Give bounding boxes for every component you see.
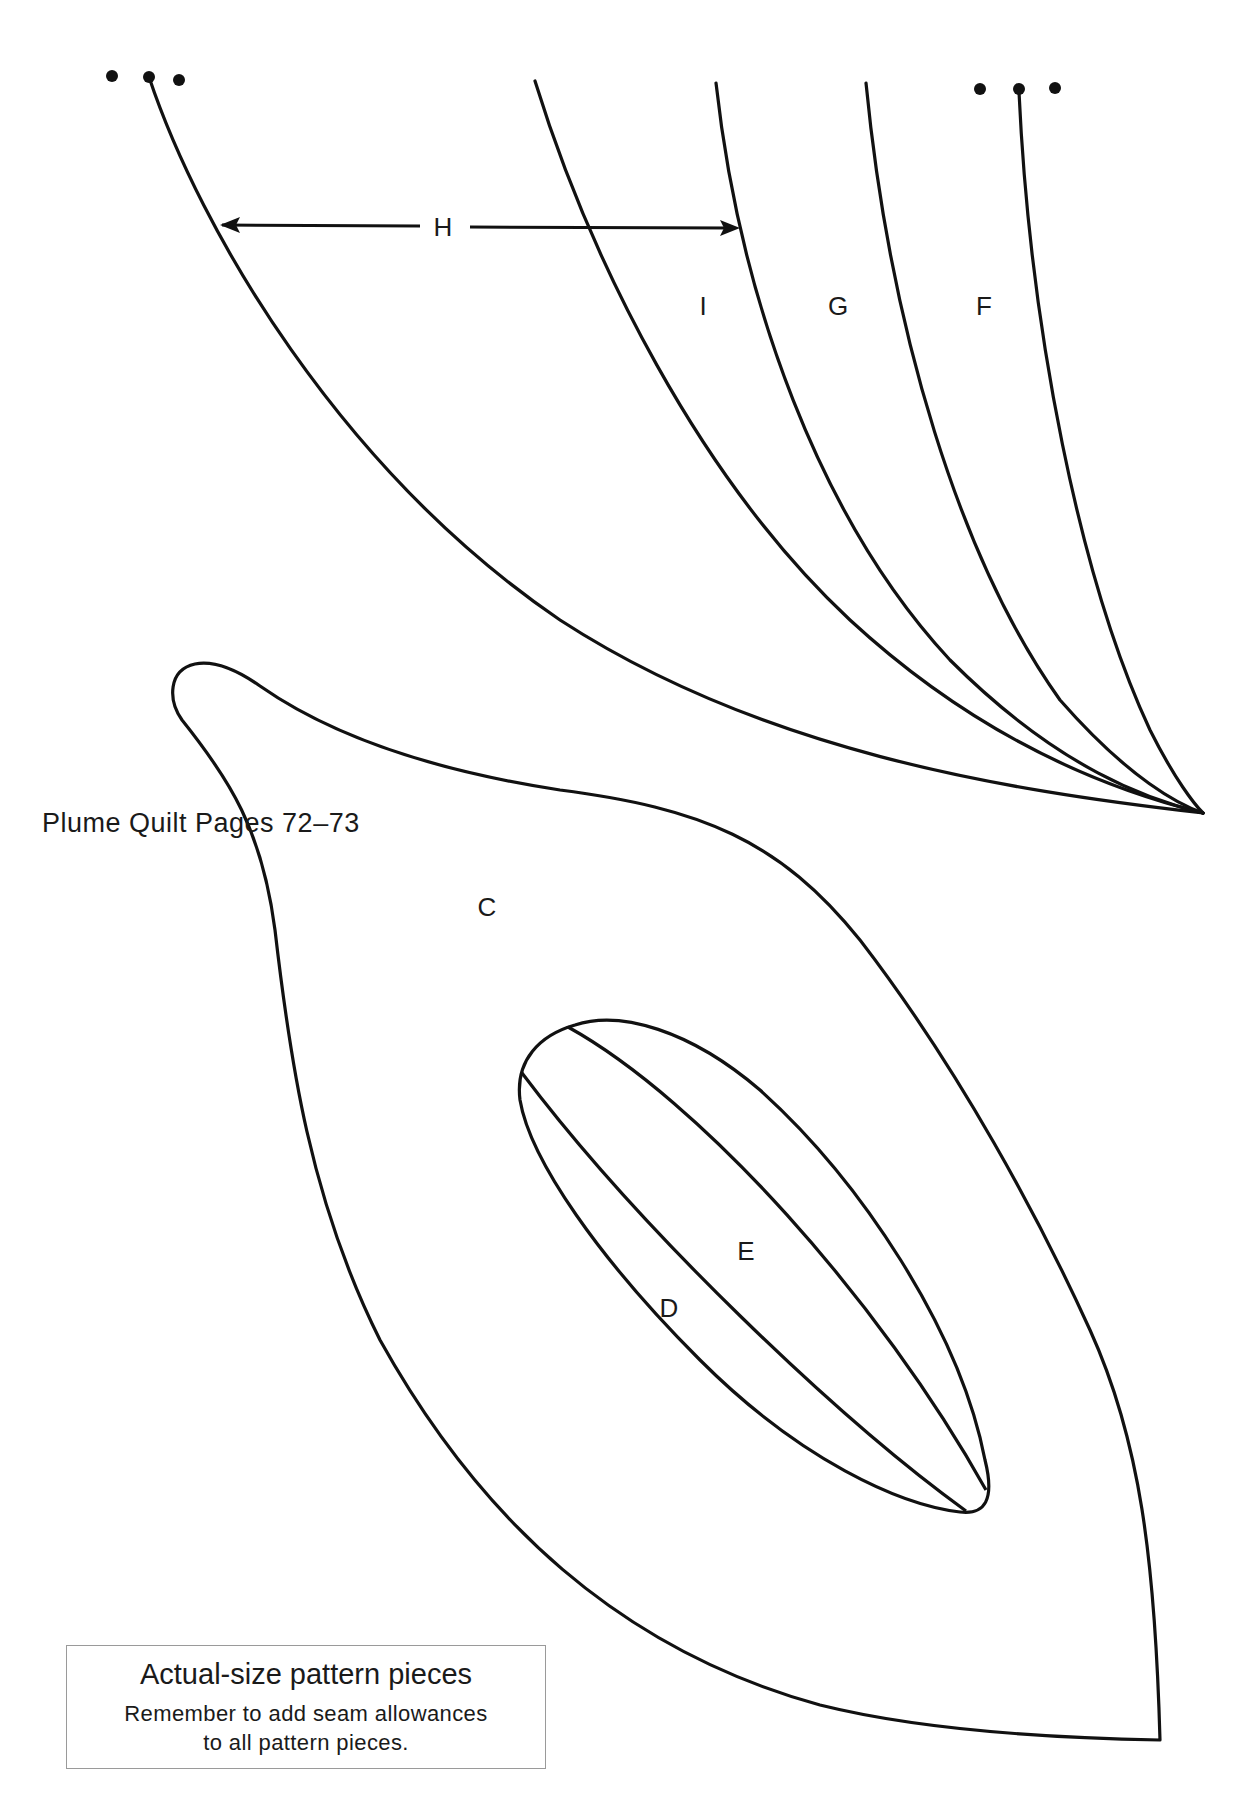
piece-label-c: C xyxy=(478,894,497,920)
dot xyxy=(143,71,155,83)
instruction-heading: Actual-size pattern pieces xyxy=(67,1658,545,1691)
piece-label-e: E xyxy=(737,1238,754,1264)
piece-label-g: G xyxy=(828,293,848,319)
h-dimension-arrow xyxy=(220,217,740,236)
piece-label-i: I xyxy=(699,293,706,319)
plume-outline-right xyxy=(1019,92,1203,813)
instruction-line-2: to all pattern pieces. xyxy=(67,1728,545,1757)
instruction-text: Remember to add seam allowances to all p… xyxy=(67,1699,545,1757)
plume-line-g xyxy=(716,83,1203,813)
plume-line-i xyxy=(535,81,1203,813)
pattern-drawing xyxy=(0,0,1249,1795)
piece-label-f: F xyxy=(976,293,992,319)
page-title: Plume Quilt Pages 72–73 xyxy=(42,808,360,839)
dot xyxy=(1013,83,1025,95)
plume-outline-h-left xyxy=(149,77,1203,813)
dot xyxy=(1049,82,1061,94)
dot xyxy=(974,83,986,95)
piece-label-d: D xyxy=(660,1295,679,1321)
plume-line-f xyxy=(866,83,1203,813)
continuation-dots xyxy=(106,70,1061,95)
instruction-box: Actual-size pattern pieces Remember to a… xyxy=(66,1645,546,1769)
piece-label-h: H xyxy=(434,214,453,240)
dot xyxy=(106,70,118,82)
piece-d-e-seam-2 xyxy=(568,1027,986,1490)
piece-de-outline xyxy=(519,1020,988,1512)
instruction-line-1: Remember to add seam allowances xyxy=(67,1699,545,1728)
piece-d-e-seam-1 xyxy=(522,1073,966,1511)
dot xyxy=(173,74,185,86)
